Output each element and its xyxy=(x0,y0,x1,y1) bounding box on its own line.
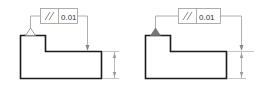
feature-control-frame: 0.01 xyxy=(41,9,78,24)
feature-control-frame: 0.01 xyxy=(179,9,221,24)
part-outline xyxy=(21,36,102,79)
datum-triangle-filled-icon xyxy=(151,28,161,36)
datum-triangle-open-icon xyxy=(26,28,36,36)
datum-leader xyxy=(156,16,179,29)
part-outline xyxy=(146,36,227,79)
left-figure: 0.01 xyxy=(21,9,120,79)
tolerance-leader xyxy=(78,16,88,50)
gdt-diagram: 0.01 0.01 xyxy=(0,0,267,87)
leader-arrow-icon xyxy=(86,45,90,51)
tolerance-value: 0.01 xyxy=(61,13,77,22)
height-dimension xyxy=(228,52,254,79)
tolerance-value: 0.01 xyxy=(199,13,215,22)
right-figure: 0.01 xyxy=(146,9,255,79)
datum-leader xyxy=(31,16,41,29)
tolerance-leader xyxy=(221,16,242,50)
height-dimension xyxy=(103,52,119,79)
leader-arrow-icon xyxy=(240,45,244,51)
